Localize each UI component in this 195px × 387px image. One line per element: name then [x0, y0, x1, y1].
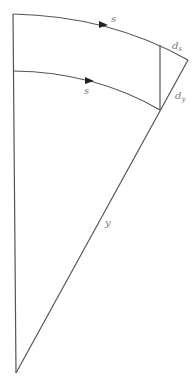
inner-arc-arrow-icon	[85, 77, 94, 84]
sector-diagram: s s ds dy y	[0, 0, 195, 387]
outer-arc	[13, 14, 188, 60]
dy-label: dy	[175, 90, 186, 103]
outer-arc-label: s	[111, 13, 116, 24]
left-radius-line	[13, 14, 16, 373]
inner-arc-label: s	[84, 85, 89, 96]
ds-label: ds	[172, 40, 182, 53]
radius-label: y	[104, 217, 111, 228]
right-radius-line	[16, 60, 188, 373]
